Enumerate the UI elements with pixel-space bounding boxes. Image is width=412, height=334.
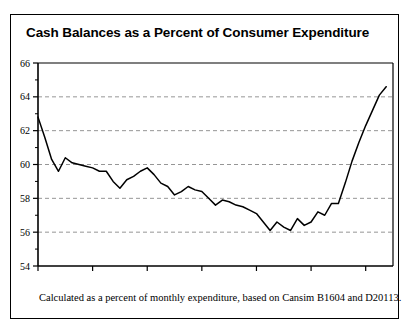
y-tick-label: 64 [20,91,30,102]
y-tick-label: 66 [20,58,30,69]
chart-caption: Calculated as a percent of monthly expen… [39,292,401,303]
y-tick-label: 60 [20,159,30,170]
page-title: Cash Balances as a Percent of Consumer E… [26,25,369,40]
grid-lines [38,97,393,232]
x-tick-label: 1993.1 [352,274,380,275]
x-tick-label: 1991.1 [297,274,325,275]
x-tick-label: 1985.1 [133,274,161,275]
chart-figure: Cash Balances as a Percent of Consumer E… [10,14,399,319]
y-tick-label: 58 [20,193,30,204]
y-tick-label: 62 [20,125,30,136]
x-tick-label: 1981.1 [24,274,52,275]
data-series-line [38,87,386,231]
x-tick-label: 1989.1 [243,274,271,275]
x-tick-label: 1987.1 [188,274,216,275]
y-axis: 54565860626466 [20,58,38,272]
x-tick-label: 1983.1 [79,274,107,275]
line-chart-svg: 54565860626466 1981.11983.11985.11987.11… [11,55,398,275]
y-tick-label: 54 [20,261,30,272]
x-axis: 1981.11983.11985.11987.11989.11991.11993… [24,266,393,275]
plot-area: 54565860626466 1981.11983.11985.11987.11… [11,55,398,275]
y-tick-label: 56 [20,227,30,238]
